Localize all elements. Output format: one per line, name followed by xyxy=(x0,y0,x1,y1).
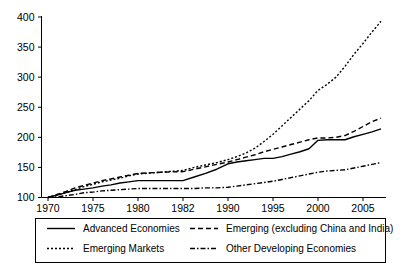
x-tick-label: 1990 xyxy=(216,202,240,214)
x-tick-label: 1982 xyxy=(171,202,195,214)
chart-figure: 100150200250300350400 197019751980198219… xyxy=(0,0,404,278)
x-tick-label: 2005 xyxy=(351,202,375,214)
x-tick-label: 1975 xyxy=(81,202,105,214)
y-tick-label: 150 xyxy=(17,161,35,173)
y-tick-label: 100 xyxy=(17,191,35,203)
series-line-emerging-excluding-china-and-india xyxy=(48,118,381,197)
x-tick-label: 2000 xyxy=(306,202,330,214)
legend-label-other-developing-economies: Other Developing Economies xyxy=(226,243,356,254)
series-line-other-developing-economies xyxy=(48,163,381,198)
x-tick-label: 1995 xyxy=(261,202,285,214)
legend-entries: Advanced EconomiesEmerging (excluding Ch… xyxy=(47,223,393,254)
y-tick-label: 350 xyxy=(17,41,35,53)
series-line-advanced-economies xyxy=(48,129,381,198)
y-tick-label: 300 xyxy=(17,71,35,83)
legend-label-emerging-excluding-china-and-india: Emerging (excluding China and India) xyxy=(226,223,393,234)
y-axis-ticks: 100150200250300350400 xyxy=(17,11,42,204)
y-tick-label: 200 xyxy=(17,131,35,143)
legend-label-emerging-markets: Emerging Markets xyxy=(83,243,164,254)
series-lines xyxy=(48,21,381,197)
y-tick-label: 250 xyxy=(17,101,35,113)
x-tick-label: 1970 xyxy=(36,202,60,214)
legend-label-advanced-economies: Advanced Economies xyxy=(83,223,180,234)
y-tick-label: 400 xyxy=(17,11,35,23)
x-axis-ticks: 19701975198019821990199520002005 xyxy=(36,198,375,214)
line-chart: 100150200250300350400 197019751980198219… xyxy=(0,0,404,278)
x-tick-label: 1980 xyxy=(126,202,150,214)
